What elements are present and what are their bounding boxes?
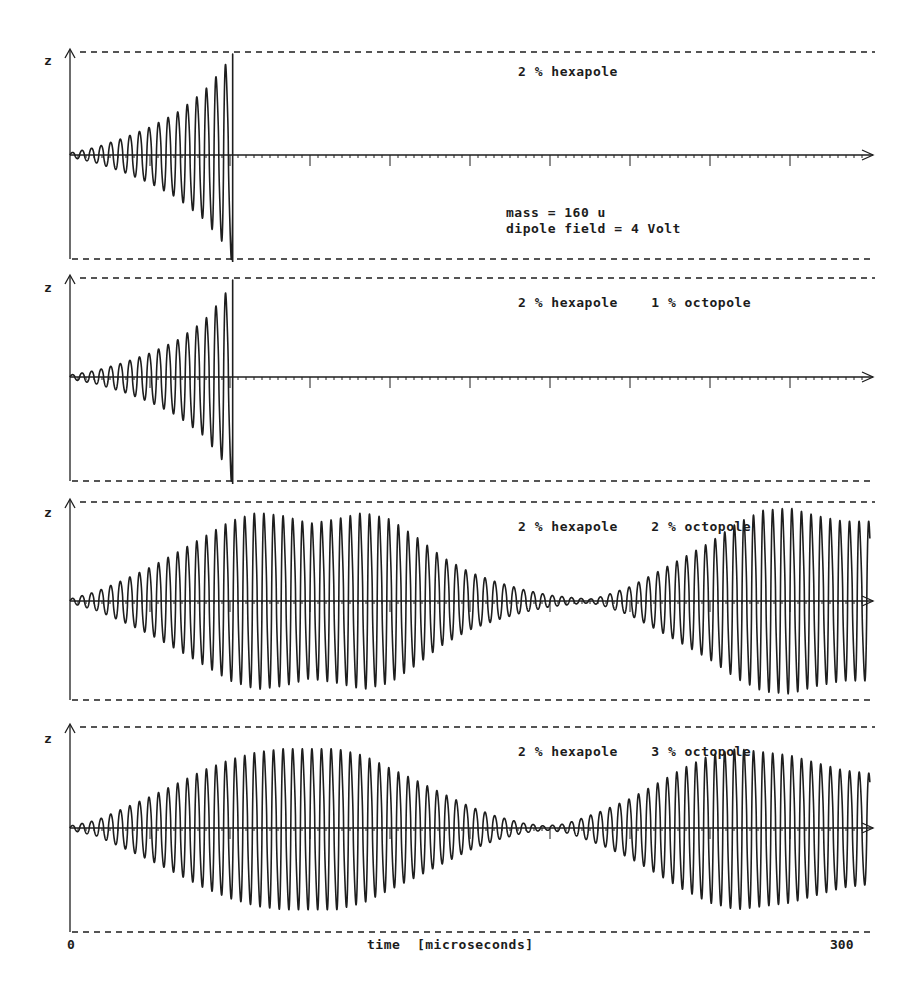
- x-axis-max-label: 300: [830, 937, 853, 952]
- y-axis-label-panel-4: z: [44, 731, 52, 746]
- trajectory-plots: [0, 0, 923, 986]
- panel-4-title: 2 % hexapole 3 % octopole: [518, 744, 751, 759]
- panel-3-title: 2 % hexapole 2 % octopole: [518, 519, 751, 534]
- panel-1-title: 2 % hexapole: [518, 64, 618, 79]
- x-axis-min-label: 0: [67, 937, 75, 952]
- z-trajectory-line: [70, 280, 233, 484]
- y-axis-label-panel-3: z: [44, 505, 52, 520]
- panel-2-title: 2 % hexapole 1 % octopole: [518, 295, 751, 310]
- panel-hexapole-octopole-3pct: [65, 724, 875, 932]
- y-axis-label-panel-2: z: [44, 280, 52, 295]
- panel-hexapole-2pct: [65, 49, 875, 262]
- y-axis-label-panel-1: z: [44, 53, 52, 68]
- z-trajectory-line: [70, 54, 233, 262]
- dipole-field-annotation: dipole field = 4 Volt: [506, 221, 681, 236]
- panel-hexapole-octopole-2pct: [65, 499, 875, 700]
- mass-annotation: mass = 160 u: [506, 205, 606, 220]
- panel-hexapole-octopole-1pct: [65, 275, 875, 484]
- x-axis-title: time [microseconds]: [367, 937, 534, 952]
- figure: z 2 % hexapole mass = 160 u dipole field…: [0, 0, 923, 986]
